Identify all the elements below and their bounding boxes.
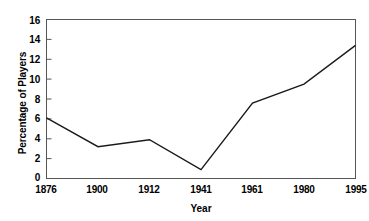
x-tick-label: 1995 bbox=[333, 184, 369, 196]
x-tick-label: 1980 bbox=[281, 184, 327, 196]
x-tick-label: 1961 bbox=[229, 184, 275, 196]
x-tick-label: 1941 bbox=[178, 184, 224, 196]
plot-frame bbox=[47, 20, 356, 179]
x-axis-title: Year bbox=[46, 203, 356, 215]
x-tick-label: 1912 bbox=[126, 184, 172, 196]
x-tick-label: 1900 bbox=[74, 184, 120, 196]
line-chart: Percentage of Players 16 14 12 10 8 6 4 … bbox=[0, 0, 369, 221]
x-tick-label: 1876 bbox=[23, 184, 69, 196]
